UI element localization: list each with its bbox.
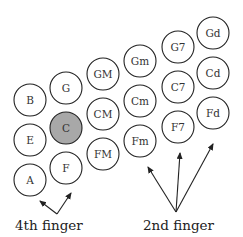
bass-button-g: G [50, 72, 82, 104]
button-label: C [62, 122, 70, 134]
button-label: CM [94, 108, 113, 120]
button-label: E [26, 134, 34, 146]
button-label: F7 [171, 121, 185, 133]
button-label: Gm [131, 55, 149, 67]
bass-button-diagram: BEAGCFGMCMFMGmCmFmG7C7F7GdCdFd 4th finge… [0, 0, 243, 237]
bass-button-gd: Gd [197, 17, 229, 49]
bass-button-a: A [14, 164, 46, 196]
button-label: Cd [206, 67, 221, 79]
second-finger-arrow [148, 167, 176, 212]
button-label: G [62, 82, 70, 94]
button-label: Cm [131, 95, 149, 107]
bass-button-gm: Gm [124, 45, 156, 77]
button-label: FM [94, 148, 112, 160]
button-label: F [62, 162, 69, 174]
bass-button-gm: GM [87, 58, 119, 90]
second-finger-arrow [176, 153, 180, 212]
button-label: Fd [206, 107, 220, 119]
button-label: B [26, 94, 34, 106]
button-label: GM [93, 68, 112, 80]
bass-button-e: E [14, 124, 46, 156]
button-label: A [25, 174, 34, 186]
bass-button-fm: Fm [124, 125, 156, 157]
bass-button-cm: Cm [124, 85, 156, 117]
fourth-finger-label: 4th finger [15, 217, 83, 233]
bass-button-b: B [14, 84, 46, 116]
bass-button-fm: FM [87, 138, 119, 170]
bass-button-f: F [50, 152, 82, 184]
button-grid: BEAGCFGMCMFMGmCmFmG7C7F7GdCdFd [14, 17, 229, 196]
fourth-finger-arrow [40, 201, 57, 214]
button-label: G7 [170, 41, 185, 53]
second-finger-arrow [176, 144, 213, 212]
bass-button-f7: F7 [162, 111, 194, 143]
bass-button-c7: C7 [162, 71, 194, 103]
bass-button-g7: G7 [162, 31, 194, 63]
button-label: Fm [131, 135, 148, 147]
bass-button-c: C [50, 112, 82, 144]
bass-button-cm: CM [87, 98, 119, 130]
fourth-finger-arrow [57, 193, 71, 214]
bass-button-fd: Fd [197, 97, 229, 129]
second-finger-label: 2nd finger [143, 217, 215, 233]
bass-button-cd: Cd [197, 57, 229, 89]
button-label: Gd [205, 27, 220, 39]
button-label: C7 [171, 81, 186, 93]
